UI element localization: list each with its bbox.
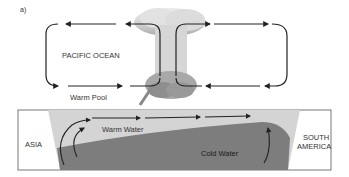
south-america-label-2: AMERICA: [297, 142, 331, 151]
cold-water-label: Cold Water: [201, 149, 238, 158]
ocean-cross-section: [18, 110, 331, 170]
warm-pool-label: Warm Pool: [70, 93, 107, 102]
warm-water-label: Warm Water: [102, 125, 144, 134]
pacific-ocean-label: PACIFIC OCEAN: [62, 51, 120, 60]
south-america-label-1: SOUTH: [303, 133, 329, 142]
asia-label: ASIA: [25, 140, 42, 149]
right-walker-cell: [176, 24, 287, 86]
convection-cloud: [134, 8, 206, 105]
panel-label: a): [20, 6, 26, 13]
